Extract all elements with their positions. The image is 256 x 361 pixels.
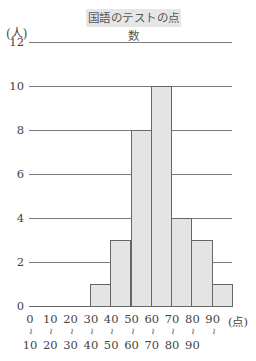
histogram-bar	[110, 240, 131, 307]
gridline	[29, 86, 232, 87]
x-tick-upper: 80	[162, 339, 182, 351]
y-tick-label: 12	[2, 36, 24, 48]
x-tick-upper: 70	[142, 339, 162, 351]
y-tick-label: 10	[2, 80, 24, 92]
x-tick-upper: 30	[61, 339, 81, 351]
x-tick-upper: 60	[122, 339, 142, 351]
histogram-bar	[191, 240, 212, 307]
histogram-bar	[131, 130, 152, 307]
y-tick-label: 8	[2, 124, 24, 136]
x-tick-upper: 40	[81, 339, 101, 351]
y-tick-label: 4	[2, 212, 24, 224]
y-tick-label: 6	[2, 168, 24, 180]
histogram-bar	[212, 284, 233, 307]
histogram-bar	[151, 86, 172, 307]
chart-title: 国語のテストの点数	[86, 9, 181, 27]
y-tick-label: 2	[2, 256, 24, 268]
histogram-bar	[90, 284, 111, 307]
x-tick-upper: 50	[101, 339, 121, 351]
x-axis-unit: (点)	[228, 313, 248, 329]
range-tilde: ~	[208, 322, 217, 342]
histogram-bar	[171, 218, 192, 307]
y-tick-label: 0	[2, 300, 24, 312]
x-tick-upper: 90	[182, 339, 202, 351]
x-tick-upper: 20	[40, 339, 60, 351]
x-tick-upper: 10	[20, 339, 40, 351]
gridline	[29, 42, 232, 43]
